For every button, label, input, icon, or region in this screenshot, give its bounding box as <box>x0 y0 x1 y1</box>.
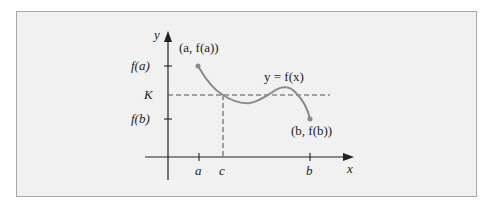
label-c: c <box>219 163 225 178</box>
label-fa: f(a) <box>131 58 150 73</box>
x-axis-arrow-icon <box>343 153 354 161</box>
start-point <box>196 64 201 69</box>
label-fb: f(b) <box>131 111 150 126</box>
label-b: b <box>306 163 313 178</box>
label-a: a <box>195 163 202 178</box>
y-axis-label: y <box>152 27 160 42</box>
label-curve: y = f(x) <box>264 69 304 84</box>
label-k: K <box>143 87 154 102</box>
y-axis-arrow-icon <box>164 31 172 42</box>
label-start-point: (a, f(a)) <box>179 40 219 55</box>
ivt-diagram: y x f(a) K f(b) a c b (a, f(a)) (b, f(b)… <box>0 0 487 211</box>
x-axis-label: x <box>346 161 353 176</box>
end-point <box>308 117 313 122</box>
label-end-point: (b, f(b)) <box>291 123 332 138</box>
